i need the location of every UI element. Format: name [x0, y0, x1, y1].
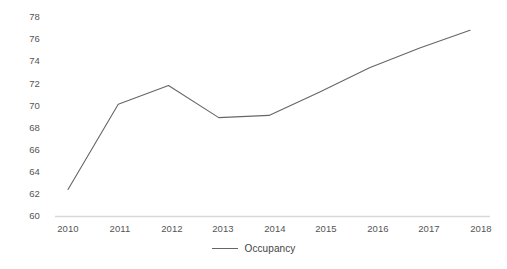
y-tick-68: 68: [14, 122, 40, 133]
x-tick-2010: 2010: [48, 223, 88, 234]
series-line-occupancy: [68, 30, 470, 189]
y-tick-78: 78: [14, 11, 40, 22]
y-tick-60: 60: [14, 210, 40, 221]
legend-item-occupancy: Occupancy: [245, 243, 296, 254]
x-tick-2014: 2014: [255, 223, 295, 234]
y-tick-64: 64: [14, 166, 40, 177]
x-tick-2018: 2018: [461, 223, 501, 234]
x-tick-2015: 2015: [306, 223, 346, 234]
y-tick-70: 70: [14, 100, 40, 111]
y-tick-76: 76: [14, 33, 40, 44]
x-tick-2012: 2012: [152, 223, 192, 234]
legend-line-icon: [212, 248, 238, 249]
x-tick-2016: 2016: [358, 223, 398, 234]
y-tick-72: 72: [14, 78, 40, 89]
y-tick-62: 62: [14, 188, 40, 199]
x-tick-2013: 2013: [203, 223, 243, 234]
x-tick-2017: 2017: [409, 223, 449, 234]
y-tick-66: 66: [14, 144, 40, 155]
x-tick-2011: 2011: [100, 223, 140, 234]
chart-legend: Occupancy: [0, 243, 507, 254]
line-chart: 78 76 74 72 70 68 66 64 62 60 2010 2011 …: [0, 0, 507, 269]
y-tick-74: 74: [14, 55, 40, 66]
